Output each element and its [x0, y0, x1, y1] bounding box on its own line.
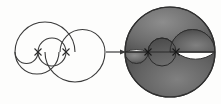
right-panel-shaded-construction: [125, 7, 215, 97]
small-lower-arc: [15, 52, 38, 64]
inner-upper-arc: [38, 38, 66, 52]
transform-arrow: [106, 49, 126, 54]
figure-container: [0, 0, 221, 104]
large-lower-arc: [45, 52, 105, 82]
geometry-diagram: [0, 0, 221, 104]
small-upper-arc: [60, 30, 105, 52]
inner-lower-arc: [38, 52, 66, 66]
